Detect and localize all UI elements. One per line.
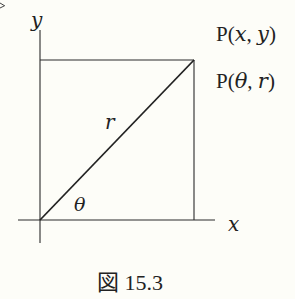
diagram-canvas: y x r θ P(x, y) P(θ, r) 図 15.3 — [0, 0, 295, 299]
figure-caption: 図 15.3 — [97, 270, 163, 295]
angle-label: θ — [74, 193, 86, 215]
x-axis-label: x — [228, 212, 239, 236]
polar-coordinates-figure: y x r θ P(x, y) P(θ, r) 図 15.3 — [0, 0, 295, 299]
crop-artifact-mark — [0, 3, 5, 8]
cartesian-point-label: P(x, y) — [216, 22, 276, 46]
y-axis-label: y — [30, 8, 43, 32]
polar-point-label: P(θ, r) — [216, 69, 275, 93]
radius-label: r — [105, 110, 116, 134]
radius-segment — [40, 60, 194, 220]
